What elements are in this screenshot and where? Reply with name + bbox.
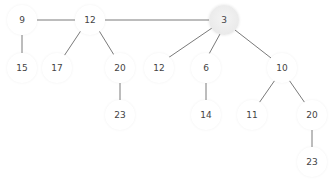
node-label: 14 xyxy=(200,110,211,120)
tree-node-11: 11 xyxy=(237,100,267,130)
tree-node-9: 9 xyxy=(7,5,37,35)
edge-12-20 xyxy=(98,29,114,55)
tree-node-10: 10 xyxy=(267,53,297,83)
tree-node-23: 23 xyxy=(105,100,135,130)
tree-node-17: 17 xyxy=(42,53,72,83)
tree-node-12b: 12 xyxy=(144,53,174,83)
tree-node-20: 20 xyxy=(105,53,135,83)
node-label: 12 xyxy=(153,63,164,73)
tree-node-23b: 23 xyxy=(297,147,327,177)
edge-12-17 xyxy=(64,29,82,56)
edge-10-20 xyxy=(289,80,305,103)
tree-node-3-root: 3 xyxy=(209,5,239,35)
tree-node-14: 14 xyxy=(191,100,221,130)
node-label: 9 xyxy=(19,15,25,25)
node-label: 11 xyxy=(246,110,257,120)
edge-3-10 xyxy=(235,30,271,58)
edge-10-11 xyxy=(259,80,275,103)
tree-node-20b: 20 xyxy=(297,100,327,130)
node-label: 17 xyxy=(51,63,62,73)
tree-node-12: 12 xyxy=(75,5,105,35)
tree-edges xyxy=(0,0,334,182)
node-label: 10 xyxy=(276,63,287,73)
node-label: 6 xyxy=(203,63,209,73)
node-label: 3 xyxy=(221,15,227,25)
tree-node-15: 15 xyxy=(7,53,37,83)
edge-3-6 xyxy=(209,34,220,54)
tree-node-6: 6 xyxy=(191,53,221,83)
node-label: 15 xyxy=(16,63,27,73)
node-label: 20 xyxy=(114,63,125,73)
node-label: 12 xyxy=(84,15,95,25)
node-label: 23 xyxy=(306,157,317,167)
node-label: 20 xyxy=(306,110,317,120)
node-label: 23 xyxy=(114,110,125,120)
